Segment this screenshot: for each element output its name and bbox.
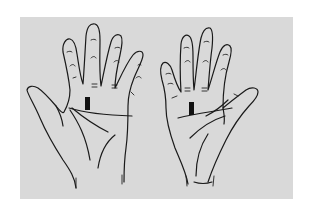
left-hand	[27, 24, 143, 188]
left-finger-creases	[67, 39, 141, 95]
right-hand-marker	[189, 102, 194, 115]
left-hand-marker	[85, 97, 90, 110]
hands-illustration	[0, 0, 310, 214]
right-hand	[161, 28, 258, 186]
